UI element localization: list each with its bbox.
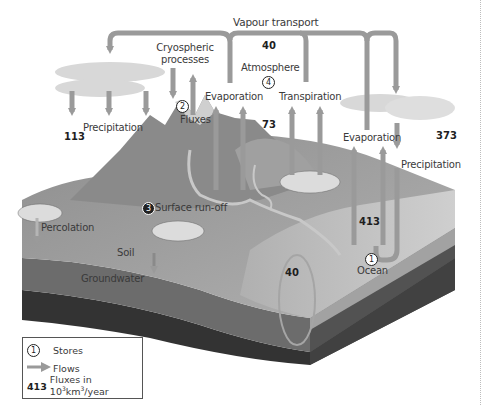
legend-row-stores: 1 Stores <box>27 341 138 359</box>
flux-ocean-evaporation: 413 <box>359 216 380 228</box>
legend-flux-example: 413 <box>27 381 47 392</box>
store-marker-3: 3 <box>142 202 155 215</box>
legend: 1 Stores Flows 413 Fluxes in 103km3/year <box>22 337 143 399</box>
store-marker-2: 2 <box>176 100 189 113</box>
flux-land-precipitation: 113 <box>64 131 85 143</box>
label-transpiration: Transpiration <box>279 91 341 103</box>
label-fluxes: Fluxes <box>180 114 211 126</box>
flow-arrow-icon <box>27 362 53 374</box>
label-ocean: Ocean <box>357 265 388 277</box>
label-cryospheric-processes: Cryospheric processes <box>155 42 215 66</box>
legend-row-fluxes: 413 Fluxes in 103km3/year <box>27 377 138 395</box>
label-cryospheric-line2: processes <box>155 54 215 66</box>
label-groundwater: Groundwater <box>81 273 144 285</box>
legend-store-symbol: 1 <box>27 344 40 357</box>
legend-flux-units: Fluxes in 103km3/year <box>50 374 138 397</box>
flux-vapour-transport: 40 <box>262 40 276 52</box>
label-percolation: Percolation <box>41 222 94 234</box>
label-soil: Soil <box>117 247 134 259</box>
flux-land-evapotranspiration: 73 <box>262 119 276 131</box>
label-surface-runoff-text: Surface run-off <box>155 202 227 213</box>
page-margin-divider <box>480 0 481 405</box>
label-atmosphere: Atmosphere <box>241 62 300 74</box>
store-marker-4: 4 <box>262 76 275 89</box>
label-precipitation-land: Precipitation <box>83 122 143 134</box>
legend-stores-label: Stores <box>53 345 83 356</box>
label-surface-runoff: 3Surface run-off <box>142 202 227 215</box>
legend-flows-label: Flows <box>53 363 80 374</box>
label-evaporation-ocean: Evaporation <box>343 132 401 144</box>
label-precipitation-ocean: Precipitation <box>401 159 461 171</box>
flux-runoff-return: 40 <box>285 267 299 279</box>
label-vapour-transport: Vapour transport <box>233 16 319 28</box>
label-cryospheric-line1: Cryospheric <box>155 42 215 54</box>
flux-ocean-precipitation: 373 <box>436 130 457 142</box>
label-evaporation-land: Evaporation <box>205 91 263 103</box>
